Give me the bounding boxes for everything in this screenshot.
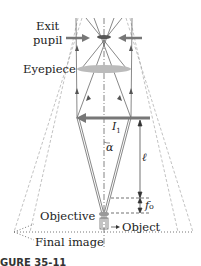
exit-pupil-disc [97,35,111,39]
exit-pupil-label-line1: Exit [36,20,59,32]
objective-lens [99,212,109,216]
object-label: Object [122,221,160,233]
object-pointer [111,225,120,229]
alpha-symbol: α [106,141,113,154]
length-symbol: ℓ [142,151,147,164]
intermediate-image-symbol: I1 [112,120,121,135]
eyepiece-lens [77,65,131,73]
figure-caption: GURE 35-11 [0,257,66,266]
final-image-label: Final image [35,236,104,248]
ray-diagram [0,0,201,266]
virtual-rays [14,18,193,232]
eyepiece-label: Eyepiece [23,63,76,75]
exit-pupil-label-line2: pupil [33,34,63,46]
objective-label: Objective [40,210,95,222]
focal-length-symbol: fo [145,199,154,212]
